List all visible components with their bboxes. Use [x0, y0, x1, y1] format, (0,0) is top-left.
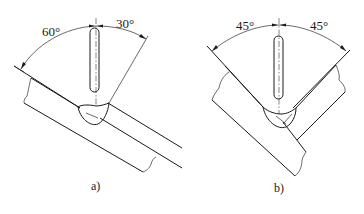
- figure-a-weld-root-line: [86, 113, 98, 118]
- figure-a-right-plate: [100, 103, 182, 172]
- figure-a-right-extension-line: [109, 36, 148, 103]
- figure-a-angle-arc: [21, 26, 146, 69]
- figure-a-right-arrowhead: [139, 34, 146, 39]
- figure-a-center-arrowhead-right: [97, 25, 103, 28]
- figure-b-right-angle-label: 45°: [310, 18, 328, 33]
- figure-b-electrode: [274, 36, 283, 99]
- figure-a-weld-bead: [78, 103, 109, 125]
- figure-a-electrode: [90, 28, 99, 92]
- figure-b-center-arrowhead-right: [280, 24, 286, 27]
- figure-a-lower-plate: [14, 66, 143, 172]
- figure-a: 60° 30° a): [14, 16, 182, 193]
- figure-a-center-arrowhead-left: [89, 25, 95, 28]
- figure-b-caption: b): [274, 181, 284, 195]
- figure-b-weld-bead: [263, 107, 296, 128]
- figure-b-right-arrowhead: [340, 45, 346, 51]
- welding-angle-diagram: 60° 30° a): [0, 0, 364, 214]
- figure-a-caption: a): [91, 179, 100, 193]
- figure-b-center-arrowhead-left: [272, 24, 278, 27]
- figure-b-left-angle-label: 45°: [236, 18, 254, 33]
- figure-b-left-arrowhead: [212, 45, 218, 51]
- figure-b: 45° 45° b): [207, 18, 350, 195]
- figure-b-right-plate: [293, 50, 350, 140]
- figure-b-weld-root-line-2: [283, 114, 292, 124]
- figure-a-right-angle-label: 30°: [116, 16, 134, 31]
- figure-a-left-angle-label: 60°: [42, 24, 60, 39]
